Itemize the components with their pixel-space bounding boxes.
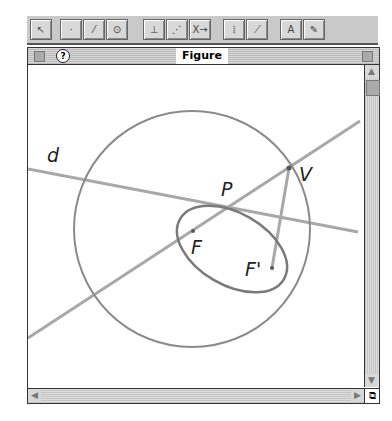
macro-icon: X→ [192,24,207,35]
line-tool-button[interactable]: ⁄ [83,19,105,40]
point-icon: · [69,24,72,35]
circle-icon: ⊙ [113,24,121,35]
label-p: P [221,178,233,200]
zoom-box[interactable] [362,51,373,62]
arrow-icon: ↖ [37,24,45,35]
perpendicular-icon: ⊥ [150,24,159,35]
title-bar[interactable]: ? Figure [28,48,379,65]
pencil-icon: ✎ [310,24,318,35]
vertical-scroll-thumb[interactable] [366,80,380,96]
scroll-left-arrow-icon[interactable]: ◀ [28,389,41,402]
point-fprime[interactable] [270,266,274,270]
window-title: Figure [176,48,228,64]
circle[interactable] [74,111,310,347]
horizontal-scrollbar[interactable]: ◀ ▶ [28,388,364,403]
text-tool-button[interactable]: A [280,19,302,40]
draw-tool-button[interactable]: ✎ [303,19,325,40]
point-f[interactable] [191,229,195,233]
resize-grow-box-icon[interactable]: ⧉ [364,388,379,403]
display-tool-button[interactable]: ⟋ [246,19,268,40]
close-box[interactable] [34,51,45,62]
circle-tool-button[interactable]: ⊙ [106,19,128,40]
vertical-scrollbar[interactable]: ▲ ▼ [364,65,379,387]
display-icon: ⟋ [254,24,261,36]
label-v: V [299,163,314,185]
toolbar: ↖ · ⁄ ⊙ ⊥ ⋰ X→ ⁞ ⟋ A ✎ [27,16,378,45]
text-icon: A [288,24,295,35]
point-tool-button[interactable]: · [60,19,82,40]
arrow-tool-button[interactable]: ↖ [30,19,52,40]
scroll-right-arrow-icon[interactable]: ▶ [351,389,364,402]
label-fprime: F' [245,258,261,280]
macro-tool-button[interactable]: X→ [189,19,211,40]
line-icon: ⁄ [93,24,95,35]
construct-tool-button[interactable]: ⊥ [143,19,165,40]
transform-tool-button[interactable]: ⋰ [166,19,188,40]
label-d: d [47,144,60,166]
figure-window: ? Figure d P V F F' ▲ ▼ ◀ ▶ ⧉ [27,47,380,404]
measure-icon: ⁞ [232,24,235,35]
measure-tool-button[interactable]: ⁞ [223,19,245,40]
help-icon[interactable]: ? [56,49,70,63]
drawing-canvas[interactable]: d P V F F' [28,65,364,388]
label-f: F [191,236,203,258]
point-v[interactable] [287,166,292,171]
scroll-up-arrow-icon[interactable]: ▲ [365,65,378,78]
scroll-down-arrow-icon[interactable]: ▼ [365,374,378,387]
transform-icon: ⋰ [172,24,182,35]
